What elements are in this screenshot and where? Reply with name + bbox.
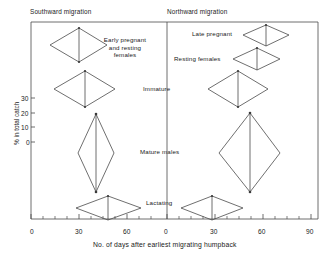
kite-early-pregnant-resting-females xyxy=(50,27,107,63)
kite-immature-south xyxy=(54,70,115,108)
kite-mature-males-north xyxy=(219,112,280,194)
kite-mature-males-south xyxy=(78,113,114,194)
x-axis-major-ticks xyxy=(31,214,311,219)
kite-resting-females xyxy=(233,47,280,70)
kite-lactating-south xyxy=(76,195,141,220)
y-axis-ticks xyxy=(31,98,35,142)
kite-lactating-north xyxy=(181,195,243,220)
kite-immature-north xyxy=(208,70,268,108)
x-axis-minor-ticks xyxy=(43,216,299,219)
kite-diagram-figure: Southward migration Northward migration … xyxy=(0,0,326,256)
kite-diagram-svg xyxy=(0,0,326,256)
kite-late-pregnant xyxy=(243,24,289,46)
